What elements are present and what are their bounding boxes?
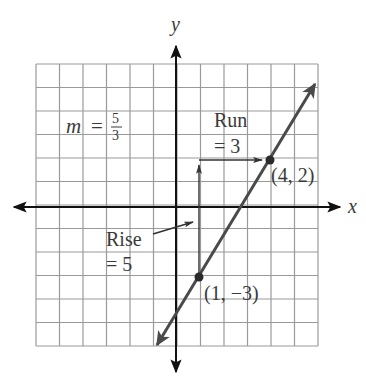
rise-label: Rise [106,228,142,250]
slope-equals: = [91,114,103,138]
slope-numerator: 5 [112,111,119,126]
slope-denominator: 3 [112,128,119,143]
rise-value: = 5 [106,253,132,275]
slope-m-label: m [66,114,81,138]
slope-diagram: x y m = 5 3 Run = 3 Rise = 5 (4, 2) (1, … [0,0,366,387]
point-label-1-neg3: (1, −3) [204,282,259,305]
y-axis-label: y [169,13,180,36]
run-value: = 3 [214,135,240,157]
point-label-4-2: (4, 2) [271,164,314,187]
run-label: Run [214,109,247,131]
point-1-neg3 [195,273,204,282]
x-axis-label: x [347,195,357,217]
